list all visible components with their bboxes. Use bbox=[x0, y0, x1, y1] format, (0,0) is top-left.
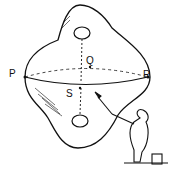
axis-lower bbox=[80, 88, 81, 114]
label-s: S bbox=[66, 88, 73, 99]
illustration: P Q R S bbox=[0, 0, 183, 175]
label-p: P bbox=[9, 68, 16, 79]
equator-back bbox=[25, 69, 148, 78]
painter-figure bbox=[95, 92, 168, 164]
label-r: R bbox=[143, 69, 150, 80]
shading bbox=[35, 16, 70, 116]
axis-upper bbox=[81, 39, 82, 82]
point-q bbox=[89, 66, 91, 68]
top-hole bbox=[74, 27, 90, 39]
bottom-hole bbox=[72, 115, 88, 127]
equator-front bbox=[25, 77, 148, 85]
point-p bbox=[24, 76, 27, 79]
point-s bbox=[79, 87, 81, 89]
surface-drawing: P Q R S bbox=[0, 0, 183, 175]
label-q: Q bbox=[86, 55, 94, 66]
